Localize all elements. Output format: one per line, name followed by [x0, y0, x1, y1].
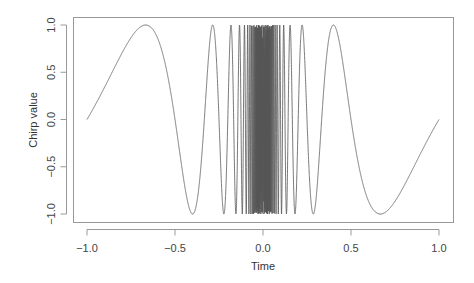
y-axis: −1.0−0.50.00.51.0: [45, 17, 67, 225]
x-tick-label: −0.5: [164, 242, 186, 254]
y-tick-label: 0.5: [45, 65, 57, 80]
y-tick-label: −0.5: [45, 156, 57, 178]
y-axis-title: Chirp value: [27, 92, 39, 148]
x-tick-label: 0.0: [255, 242, 270, 254]
y-tick-label: 1.0: [45, 17, 57, 32]
y-tick-label: −1.0: [45, 203, 57, 225]
x-tick-label: −1.0: [76, 242, 98, 254]
y-tick-label: 0.0: [45, 112, 57, 127]
x-tick-label: 1.0: [431, 242, 446, 254]
x-axis-title: Time: [251, 260, 275, 272]
x-tick-label: 0.5: [343, 242, 358, 254]
chirp-line: [87, 25, 439, 214]
chirp-chart: −1.0−0.50.00.51.0 −1.0−0.50.00.51.0 Time…: [0, 0, 474, 283]
x-axis: −1.0−0.50.00.51.0: [76, 230, 447, 254]
